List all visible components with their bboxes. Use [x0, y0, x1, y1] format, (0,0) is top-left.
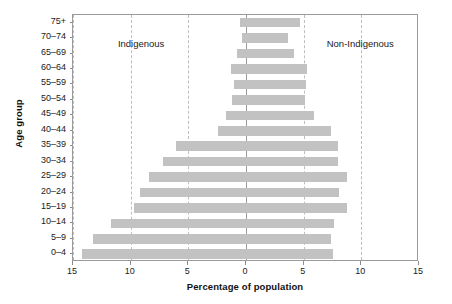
- x-tick-label: 10: [345, 266, 375, 276]
- x-tick-mark: [72, 261, 73, 265]
- y-tick-label: 10–14: [10, 217, 66, 226]
- y-tick-label: 75+: [10, 17, 66, 26]
- y-tick-label: 60–64: [10, 63, 66, 72]
- bar-indigenous-6064: [231, 64, 246, 74]
- bar-indigenous-5054: [232, 95, 246, 105]
- bar-row: [73, 172, 417, 182]
- bar-indigenous-1519: [134, 203, 246, 213]
- x-tick-label: 15: [57, 266, 87, 276]
- bar-non-indigenous-3034: [246, 157, 338, 167]
- y-tick-label: 0–4: [10, 248, 66, 257]
- bar-non-indigenous-6064: [246, 64, 307, 74]
- x-tick-label: 15: [403, 266, 433, 276]
- y-tick-label: 5–9: [10, 233, 66, 242]
- bar-row: [73, 95, 417, 105]
- bar-non-indigenous-59: [246, 234, 331, 244]
- y-tick-label: 65–69: [10, 48, 66, 57]
- x-tick-mark: [418, 261, 419, 265]
- bar-non-indigenous-2024: [246, 188, 339, 198]
- y-tick-label: 70–74: [10, 32, 66, 41]
- bar-row: [73, 80, 417, 90]
- bar-indigenous-2024: [140, 188, 246, 198]
- bar-indigenous-5559: [234, 80, 246, 90]
- bar-non-indigenous-5054: [246, 95, 305, 105]
- bar-non-indigenous-6569: [246, 49, 294, 59]
- bar-row: [73, 126, 417, 136]
- x-tick-mark: [245, 261, 246, 265]
- bar-row: [73, 18, 417, 28]
- bar-row: [73, 219, 417, 229]
- x-tick-mark: [130, 261, 131, 265]
- bar-non-indigenous-4044: [246, 126, 331, 136]
- bar-non-indigenous-04: [246, 249, 333, 259]
- y-axis-tick-labels: 75+70–7465–6960–6455–5950–5445–4940–4435…: [12, 14, 70, 261]
- y-tick-label: 50–54: [10, 94, 66, 103]
- bar-indigenous-3034: [163, 157, 246, 167]
- x-tick-mark: [187, 261, 188, 265]
- x-tick-mark: [303, 261, 304, 265]
- bar-indigenous-1014: [111, 219, 246, 229]
- bar-indigenous-2529: [149, 172, 246, 182]
- bar-indigenous-4044: [218, 126, 246, 136]
- bar-row: [73, 141, 417, 151]
- x-axis: 15105051015: [72, 261, 418, 279]
- y-tick-label: 40–44: [10, 125, 66, 134]
- bar-row: [73, 64, 417, 74]
- bar-row: [73, 157, 417, 167]
- plot-area: Indigenous Non-Indigenous: [72, 14, 418, 261]
- bar-indigenous-3539: [176, 141, 246, 151]
- x-tick-label: 0: [230, 266, 260, 276]
- y-tick-label: 20–24: [10, 187, 66, 196]
- population-pyramid-chart: Age group 75+70–7465–6960–6455–5950–5445…: [0, 0, 452, 304]
- bar-non-indigenous-4549: [246, 111, 314, 121]
- bar-row: [73, 111, 417, 121]
- bar-non-indigenous-5559: [246, 80, 306, 90]
- y-tick-label: 25–29: [10, 171, 66, 180]
- x-tick-label: 5: [172, 266, 202, 276]
- bar-indigenous-6569: [237, 49, 246, 59]
- bar-non-indigenous-3539: [246, 141, 338, 151]
- bar-non-indigenous-1519: [246, 203, 347, 213]
- bar-indigenous-04: [82, 249, 246, 259]
- bar-row: [73, 188, 417, 198]
- bar-row: [73, 249, 417, 259]
- y-tick-label: 30–34: [10, 156, 66, 165]
- bar-non-indigenous-7074: [246, 33, 288, 43]
- y-tick-label: 35–39: [10, 140, 66, 149]
- bar-indigenous-4549: [226, 111, 246, 121]
- bar-row: [73, 49, 417, 59]
- bar-row: [73, 234, 417, 244]
- caption-non-indigenous: Non-Indigenous: [327, 38, 394, 49]
- y-tick-label: 15–19: [10, 202, 66, 211]
- bar-indigenous-59: [93, 234, 246, 244]
- bar-non-indigenous-1014: [246, 219, 334, 229]
- y-tick-label: 55–59: [10, 78, 66, 87]
- x-tick-mark: [360, 261, 361, 265]
- x-axis-title: Percentage of population: [72, 281, 418, 292]
- bar-non-indigenous-75+: [246, 18, 300, 28]
- caption-indigenous: Indigenous: [118, 38, 164, 49]
- y-tick-label: 45–49: [10, 109, 66, 118]
- x-tick-label: 5: [288, 266, 318, 276]
- bar-non-indigenous-2529: [246, 172, 347, 182]
- x-tick-label: 10: [115, 266, 145, 276]
- bar-row: [73, 203, 417, 213]
